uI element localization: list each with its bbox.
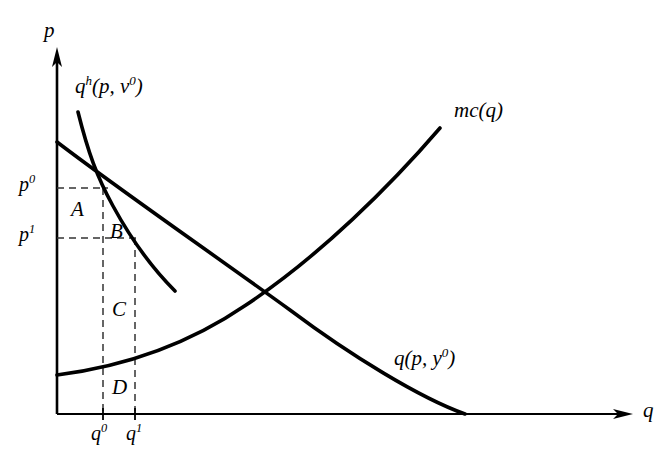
diagram-canvas (0, 0, 669, 466)
quantity-tick-q0-base: q (91, 422, 101, 444)
region-label-a: A (71, 199, 84, 220)
hicksian-label-close: ) (136, 74, 143, 98)
price-axis-label: p (44, 20, 55, 41)
quantity-axis-label: q (643, 400, 654, 421)
marshallian-label-base: q (394, 346, 405, 370)
region-label-d: D (112, 377, 127, 398)
price-tick-p0-base: p (19, 173, 29, 195)
marginal-cost-label: mc(q) (454, 100, 503, 121)
quantity-tick-q0-sup: 0 (101, 421, 107, 435)
quantity-tick-q1: q1 (126, 423, 142, 443)
marshallian-label-close: ) (448, 346, 455, 370)
marginal-cost-curve (57, 128, 440, 375)
price-tick-p1-base: p (19, 223, 29, 245)
economics-diagram: p q p0 p1 q0 q1 qh(p, v0) q(p, y0) mc(q)… (0, 0, 669, 466)
marshallian-demand-label: q(p, y0) (394, 348, 455, 369)
quantity-tick-q1-base: q (126, 422, 136, 444)
marshallian-label-args: (p, y (405, 346, 442, 370)
hicksian-demand-curve (78, 112, 175, 291)
quantity-tick-q1-sup: 1 (136, 421, 142, 435)
marshallian-demand-curve (57, 142, 465, 414)
price-tick-p1-sup: 1 (29, 222, 35, 236)
hicksian-label-args: (p, v (92, 74, 129, 98)
quantity-tick-q0: q0 (91, 423, 107, 443)
price-tick-p1: p1 (19, 224, 35, 244)
hicksian-label-base: q (75, 74, 86, 98)
region-label-c: C (112, 299, 126, 320)
hicksian-demand-label: qh(p, v0) (75, 76, 143, 97)
price-tick-p0-sup: 0 (29, 172, 35, 186)
region-label-b: B (110, 221, 123, 242)
price-tick-p0: p0 (19, 174, 35, 194)
